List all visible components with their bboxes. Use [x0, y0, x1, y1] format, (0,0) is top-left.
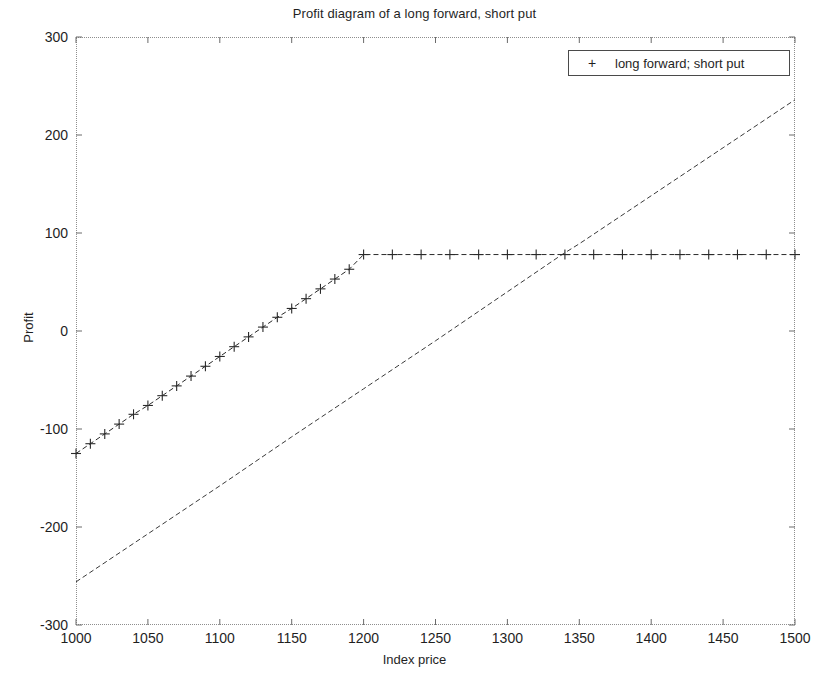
x-tick-label: 1150 — [277, 630, 307, 646]
x-axis-tick-labels: 1000105011001150120012501300135014001450… — [0, 0, 829, 680]
x-tick-label: 1500 — [779, 630, 810, 646]
x-tick-label: 1300 — [492, 630, 523, 646]
legend-marker-icon: + — [569, 56, 615, 70]
x-tick-label: 1350 — [564, 630, 595, 646]
x-tick-label: 1100 — [205, 630, 235, 646]
profit-diagram-figure: Profit diagram of a long forward, short … — [0, 0, 829, 680]
x-tick-label: 1400 — [636, 630, 667, 646]
x-tick-label: 1450 — [708, 630, 739, 646]
x-tick-label: 1000 — [60, 630, 91, 646]
x-tick-label: 1200 — [348, 630, 379, 646]
x-tick-label: 1050 — [132, 630, 163, 646]
legend-entry-label: long forward; short put — [615, 56, 744, 71]
x-tick-label: 1250 — [420, 630, 451, 646]
chart-legend[interactable]: + long forward; short put — [568, 50, 790, 76]
